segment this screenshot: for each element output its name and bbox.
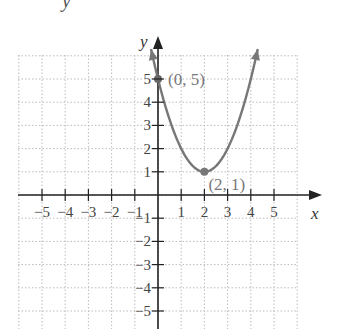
labeled-points: (0, 5)(2, 1) — [154, 70, 245, 194]
vertex-point — [200, 168, 208, 176]
y-tick-label: −1 — [135, 210, 151, 226]
x-tick-label: 2 — [201, 204, 209, 220]
x-axis-label: x — [310, 204, 319, 223]
y-tick-label: −3 — [135, 257, 151, 273]
y-tick-label: 5 — [144, 71, 152, 87]
y-tick-label: −4 — [135, 280, 151, 296]
x-tick-label: 5 — [270, 204, 278, 220]
x-tick-label: −3 — [80, 204, 96, 220]
y-tick-label: 2 — [144, 141, 152, 157]
y-tick-label: 3 — [144, 117, 152, 133]
x-axis-arrow-icon — [309, 190, 322, 200]
y-tick-label: −2 — [135, 233, 151, 249]
y-tick-label: −5 — [135, 303, 151, 319]
x-tick-label: 3 — [224, 204, 232, 220]
point-label: (2, 1) — [208, 175, 245, 194]
x-tick-label: 1 — [177, 204, 185, 220]
point-label: (0, 5) — [168, 70, 205, 89]
x-tick-label: 4 — [247, 204, 255, 220]
x-tick-label: −4 — [57, 204, 73, 220]
y-tick-label: 4 — [144, 94, 152, 110]
parabola-chart: xy (0, 5)(2, 1) −5−4−3−2−112345−5−4−3−2−… — [0, 0, 337, 329]
y-tick-label: 1 — [144, 164, 152, 180]
y-axis-label: y — [138, 32, 148, 51]
x-tick-label: −5 — [34, 204, 50, 220]
x-tick-label: −2 — [104, 204, 120, 220]
y-axis-arrow-icon — [153, 36, 163, 49]
